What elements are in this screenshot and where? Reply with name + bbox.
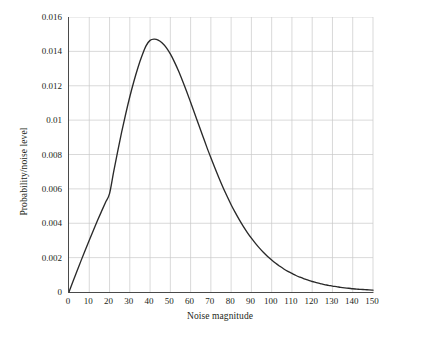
- x-tick-label: 100: [256, 296, 286, 306]
- x-tick-label: 0: [53, 296, 83, 306]
- x-tick-label: 110: [276, 296, 306, 306]
- plot-svg: [69, 17, 374, 293]
- x-tick-label: 40: [134, 296, 164, 306]
- x-tick-label: 90: [235, 296, 265, 306]
- gridlines: [69, 17, 373, 292]
- x-tick-label: 10: [73, 296, 103, 306]
- axis-ticks: [69, 17, 373, 293]
- y-axis-title: Probability/noise level: [12, 0, 36, 343]
- x-tick-label: 60: [175, 296, 205, 306]
- x-tick-label: 150: [357, 296, 387, 306]
- x-tick-label: 20: [94, 296, 124, 306]
- data-curve: [69, 39, 373, 292]
- x-tick-label: 70: [195, 296, 225, 306]
- x-tick-label: 140: [337, 296, 367, 306]
- x-axis-title: Noise magnitude: [68, 311, 372, 321]
- x-tick-label: 80: [215, 296, 245, 306]
- chart-figure: Probability/noise level Noise magnitude …: [0, 0, 421, 343]
- x-tick-label: 130: [316, 296, 346, 306]
- x-tick-label: 50: [154, 296, 184, 306]
- plot-area: [68, 17, 373, 293]
- x-tick-label: 30: [114, 296, 144, 306]
- x-tick-label: 120: [296, 296, 326, 306]
